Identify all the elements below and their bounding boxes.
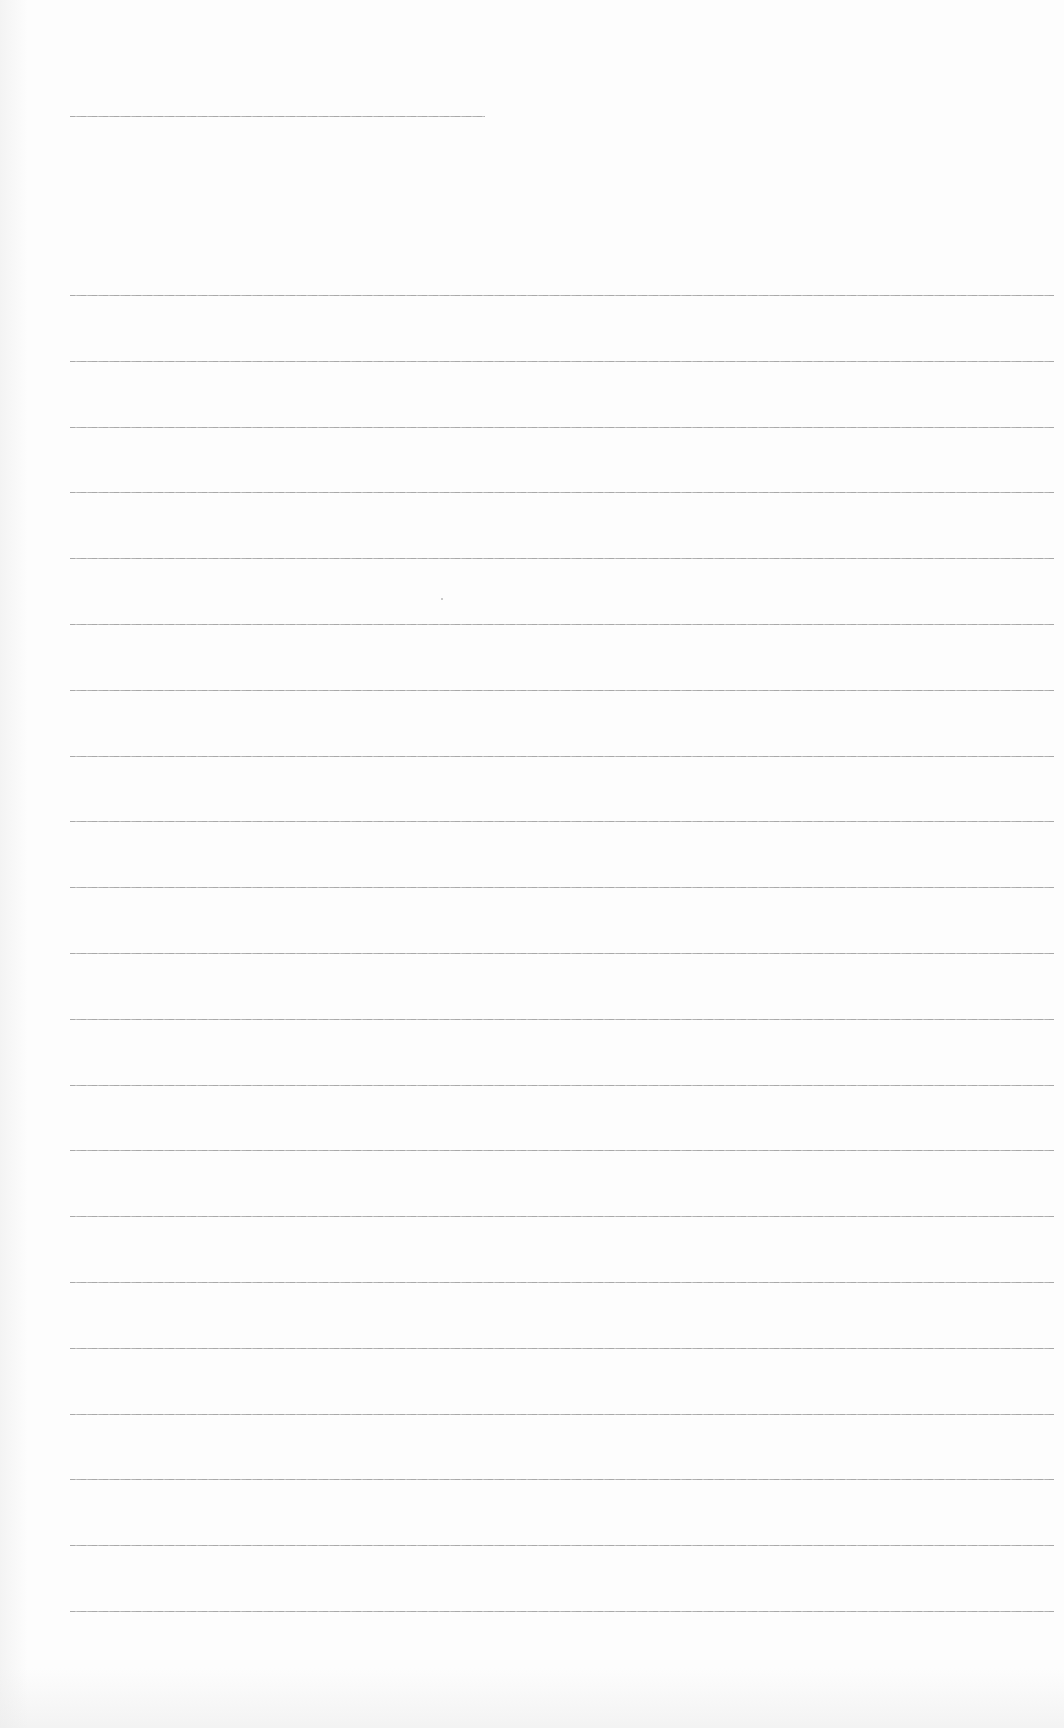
ruled-line: [70, 1019, 1054, 1020]
lined-paper-page: [0, 0, 1064, 1728]
ruled-line: [70, 690, 1054, 691]
ruled-line: [70, 1545, 1054, 1546]
ruled-line: [70, 1348, 1054, 1349]
ruled-line: [70, 492, 1054, 493]
ruled-line: [70, 1150, 1054, 1151]
ruled-line: [70, 1479, 1054, 1480]
ruled-line: [70, 295, 1054, 296]
scan-speck: [441, 598, 443, 600]
ruled-line: [70, 953, 1054, 954]
ruled-line: [70, 1414, 1054, 1415]
ruled-line: [70, 624, 1054, 625]
ruled-line: [70, 427, 1054, 428]
ruled-line: [70, 1282, 1054, 1283]
ruled-line: [70, 756, 1054, 757]
ruled-line: [70, 558, 1054, 559]
ruled-line: [70, 361, 1054, 362]
ruled-line: [70, 1085, 1054, 1086]
ruled-line: [70, 1611, 1054, 1612]
ruled-lines: [0, 0, 1064, 1728]
ruled-line: [70, 821, 1054, 822]
ruled-line: [70, 887, 1054, 888]
ruled-line: [70, 1216, 1054, 1217]
